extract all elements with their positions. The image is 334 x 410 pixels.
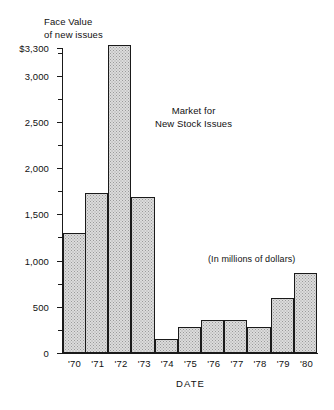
bar-column [272, 48, 295, 353]
bar-column [86, 48, 109, 353]
x-tick-label: '77 [225, 358, 248, 369]
y-tick-label: 1,000 [25, 255, 49, 266]
x-tick-label: '80 [295, 358, 318, 369]
x-tick-label: '72 [109, 358, 132, 369]
bar-79 [271, 298, 294, 353]
plot-area: $3,3003,0002,5002,0001,5001,0005000 [62, 48, 318, 354]
x-tick-label: '79 [272, 358, 295, 369]
bar-74 [155, 339, 178, 353]
bar-78 [247, 327, 270, 353]
bar-80 [294, 273, 317, 353]
y-tick-label: 3,000 [25, 70, 49, 81]
y-axis-label-line2: of new issues [44, 29, 103, 40]
bar-series [63, 48, 318, 353]
x-tick-label: '71 [86, 358, 109, 369]
y-tick-label: 500 [33, 301, 49, 312]
bar-column [225, 48, 248, 353]
bar-77 [224, 320, 247, 353]
bar-72 [108, 45, 131, 353]
bar-76 [201, 320, 224, 353]
bar-column [295, 48, 318, 353]
x-tick-label: '76 [202, 358, 225, 369]
y-tick-label: $3,300 [19, 43, 49, 54]
x-tick-label: '73 [133, 358, 156, 369]
chart-figure: Face Valueof new issues Market forNew St… [0, 0, 334, 410]
x-tick-label: '78 [249, 358, 272, 369]
y-tick-label: 2,500 [25, 116, 49, 127]
x-axis-title: DATE [63, 378, 318, 389]
y-tick-major: 0 [57, 353, 63, 354]
bar-column [179, 48, 202, 353]
bar-column [63, 48, 86, 353]
bar-column [109, 48, 132, 353]
x-axis-line [62, 353, 318, 354]
bar-column [133, 48, 156, 353]
x-axis-tick-labels: '70'71'72'73'74'75'76'77'78'79'80 [63, 358, 318, 369]
bar-75 [178, 327, 201, 353]
x-tick-label: '74 [156, 358, 179, 369]
y-axis-label: Face Valueof new issues [44, 16, 103, 41]
x-tick-label: '75 [179, 358, 202, 369]
y-tick-label: 2,000 [25, 163, 49, 174]
bar-73 [131, 197, 154, 353]
bar-column [202, 48, 225, 353]
y-tick-label: 1,500 [25, 209, 49, 220]
bar-column [249, 48, 272, 353]
bar-70 [63, 233, 86, 353]
bar-71 [85, 193, 108, 353]
y-tick-label: 0 [44, 348, 49, 359]
x-tick-label: '70 [63, 358, 86, 369]
y-axis-label-line1: Face Value [44, 16, 92, 27]
bar-column [156, 48, 179, 353]
